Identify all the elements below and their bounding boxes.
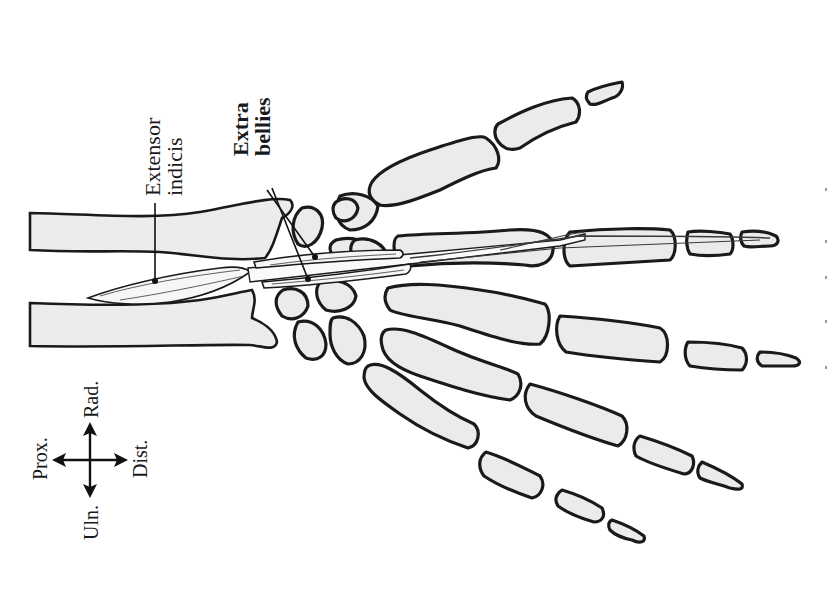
orient-dist-label: Dist. — [129, 440, 151, 478]
label-indicis-line2: indicis — [162, 137, 187, 196]
hand-anatomy-figure: Extensor indicis Extra bellies Prox. Dis… — [0, 0, 827, 593]
thumb-proximal-phalanx — [495, 98, 580, 149]
orient-rad-label: Rad. — [80, 381, 102, 418]
label-bellies-line2: bellies — [250, 97, 275, 156]
thumb-distal-phalanx — [586, 82, 622, 105]
orient-prox-label: Prox. — [29, 437, 51, 480]
label-extra-bellies: Extra bellies — [228, 97, 275, 156]
orient-uln-label: Uln. — [80, 505, 102, 540]
thumb-metacarpal — [369, 137, 499, 206]
radius-bone — [30, 199, 292, 259]
thumb-bones — [333, 82, 623, 221]
label-extensor-indicis: Extensor indicis — [140, 117, 187, 196]
orientation-compass: Prox. Dist. Rad. Uln. — [29, 381, 151, 540]
